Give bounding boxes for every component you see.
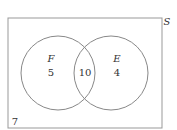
outside-count: 7: [12, 116, 18, 127]
intersection-count: 10: [79, 67, 92, 78]
set-e-only-count: 4: [114, 67, 120, 78]
venn-diagram: S F 5 10 E 4 7: [0, 0, 177, 130]
universe-label: S: [164, 16, 171, 27]
set-f-label: F: [47, 53, 56, 64]
set-f-only-count: 5: [48, 67, 54, 78]
set-e-label: E: [112, 53, 121, 64]
